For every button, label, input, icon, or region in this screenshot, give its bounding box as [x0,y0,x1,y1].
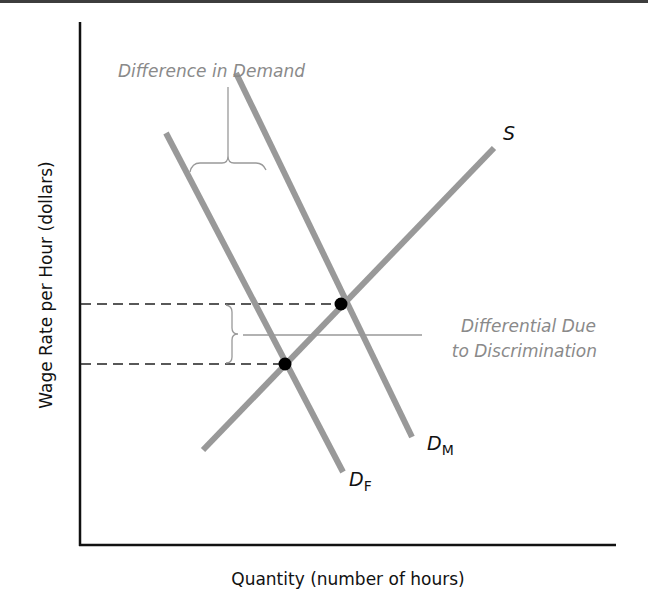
difference-in-demand-brace [190,156,266,172]
male-equilibrium-point [335,298,348,311]
discrimination-annotation-line1: Differential Due [461,316,596,336]
demand-male-curve [236,73,412,437]
demand-male-label: DM [427,432,454,458]
y-axis-title: Wage Rate per Hour (dollars) [36,161,56,408]
discrimination-annotation-line2: to Discrimination [452,341,597,361]
wage-discrimination-chart: S DM DF Difference in Demand Differentia… [0,0,648,603]
female-equilibrium-point [279,358,292,371]
x-axis-title: Quantity (number of hours) [231,569,464,589]
demand-female-curve [166,133,343,472]
demand-female-label: DF [349,468,372,494]
difference-in-demand-annotation: Difference in Demand [118,61,305,81]
supply-label: S [503,122,515,144]
discrimination-differential-brace [226,305,238,363]
